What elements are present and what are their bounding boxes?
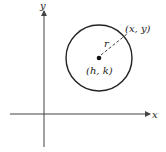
circle-diagram: y x r (h, k) (x, y) xyxy=(0,0,166,152)
radius-label: r xyxy=(104,38,110,49)
point-label: (x, y) xyxy=(125,23,151,34)
center-point xyxy=(97,56,102,61)
center-label: (h, k) xyxy=(86,65,113,76)
x-axis-label: x xyxy=(152,109,158,120)
y-axis-label: y xyxy=(39,0,46,11)
